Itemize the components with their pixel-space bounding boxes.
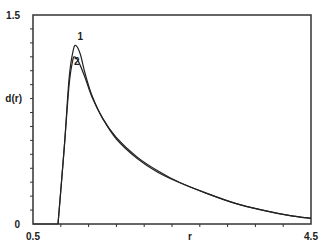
series-label-1: 1 [77,31,83,42]
curve-2 [58,57,311,224]
y-tick-max: 1.5 [6,10,20,21]
y-axis-label: d(r) [5,93,22,104]
x-tick-min: 0.5 [26,231,40,242]
series-label-2: 2 [74,56,80,67]
y-tick-min: 0 [14,219,20,230]
data-curves [33,45,311,224]
x-axis-label: r [188,231,192,242]
chart: 1.5 0 0.5 4.5 r d(r) 12 [0,0,325,243]
x-tick-max: 4.5 [304,231,318,242]
axis-ticks [30,29,283,227]
curve-1 [58,45,311,224]
